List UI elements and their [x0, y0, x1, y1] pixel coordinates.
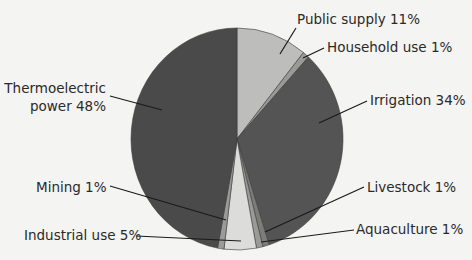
leader-line-household-use — [303, 48, 324, 58]
data-label-thermoelectric-power: Thermoelectric — [3, 80, 106, 96]
pie-chart: Public supply 11%Household use 1%Irrigat… — [0, 0, 472, 260]
data-label-household-use: Household use 1% — [327, 39, 453, 55]
data-label-thermoelectric-power: power 48% — [30, 98, 106, 114]
data-label-aquaculture: Aquaculture 1% — [356, 221, 463, 237]
pie-slice-thermoelectric-power — [131, 28, 237, 248]
data-label-industrial-use: Industrial use 5% — [24, 227, 141, 243]
data-label-irrigation: Irrigation 34% — [370, 92, 466, 108]
data-label-public-supply: Public supply 11% — [297, 11, 420, 27]
data-label-livestock: Livestock 1% — [367, 179, 456, 195]
pie-chart-svg: Public supply 11%Household use 1%Irrigat… — [0, 0, 472, 260]
data-label-mining: Mining 1% — [36, 179, 107, 195]
